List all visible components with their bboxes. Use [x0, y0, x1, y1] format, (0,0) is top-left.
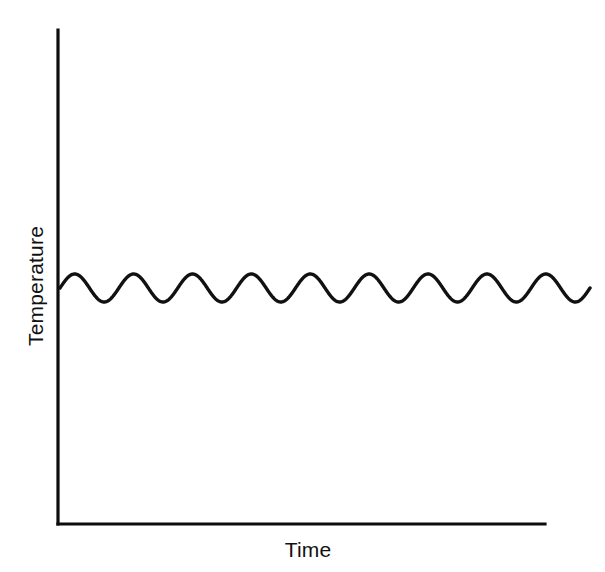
- x-axis-label: Time: [208, 538, 408, 562]
- chart-figure: Temperature Time: [0, 0, 605, 572]
- temperature-curve: [60, 274, 590, 302]
- plot-area: [0, 0, 605, 572]
- y-axis-label: Temperature: [24, 186, 48, 386]
